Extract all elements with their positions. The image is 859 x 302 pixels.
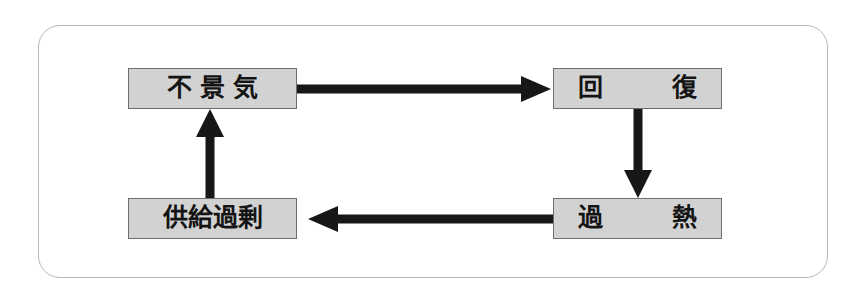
node-recession-label: 不景気 <box>159 75 266 100</box>
edge-oversupply-to-recession <box>196 109 224 198</box>
node-recovery[interactable]: 回 復 <box>553 68 722 109</box>
edge-overheat-to-oversupply <box>308 206 553 232</box>
edge-recovery-to-overheat <box>624 109 652 198</box>
node-overheat[interactable]: 過 熱 <box>553 198 722 239</box>
node-oversupply[interactable]: 供給過剰 <box>128 198 297 239</box>
arrow-layer <box>0 0 859 302</box>
node-overheat-label: 過 熱 <box>556 205 719 230</box>
edge-recession-to-recovery <box>297 76 551 102</box>
node-recovery-label: 回 復 <box>556 75 719 100</box>
node-oversupply-label: 供給過剰 <box>163 205 263 230</box>
cycle-diagram: 不景気 回 復 過 熱 供給過剰 <box>0 0 859 302</box>
node-recession[interactable]: 不景気 <box>128 68 297 109</box>
